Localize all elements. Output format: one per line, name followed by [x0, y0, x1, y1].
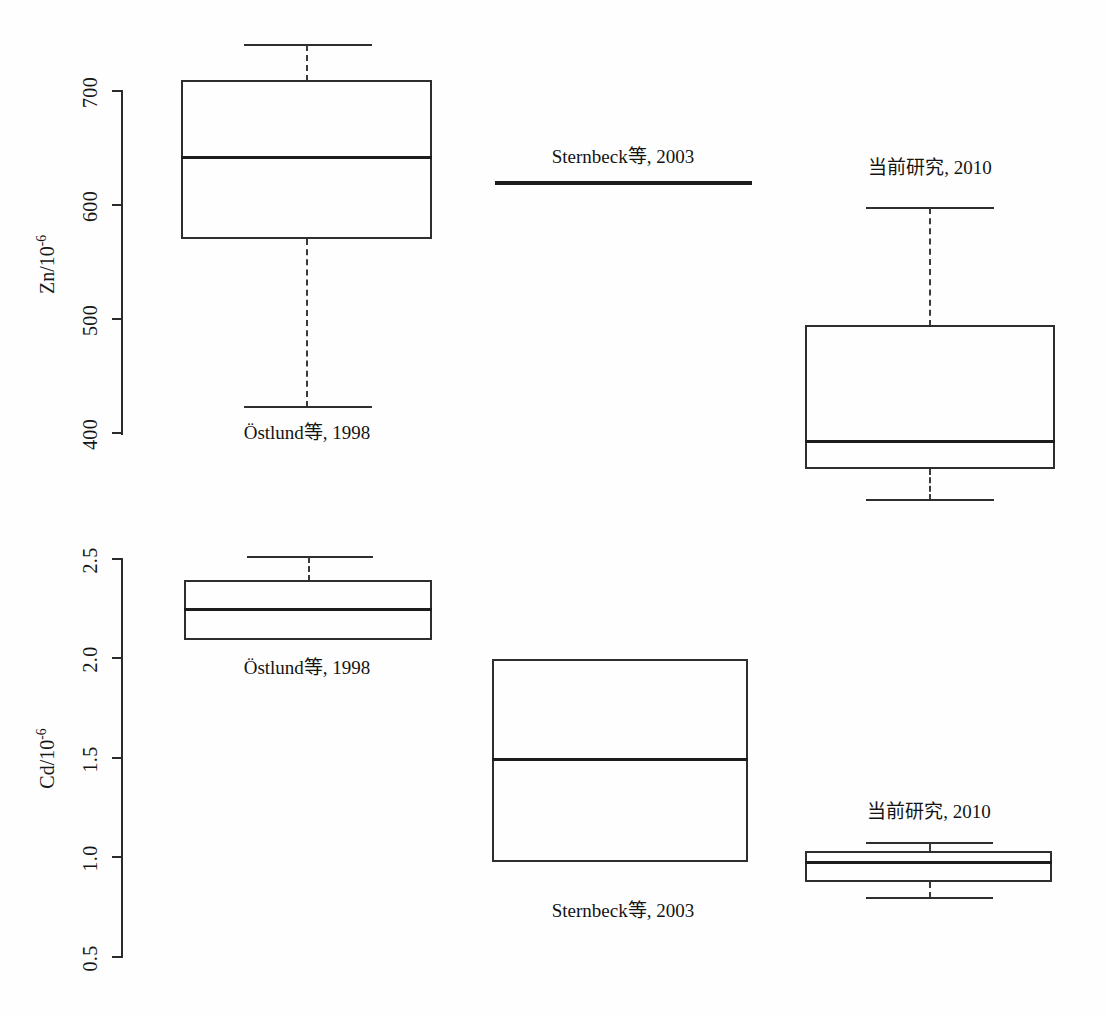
cd-box2-label: Sternbeck等, 2003: [503, 895, 743, 922]
zn-axis-title-exp: -6: [34, 235, 49, 246]
cd-box3-label: 当前研究, 2010: [823, 796, 1035, 823]
cd-box2-median: [492, 758, 748, 761]
zn-box1-lower-cap: [244, 406, 372, 408]
cd-box1-median: [184, 608, 432, 611]
cd-axis-title: Cd/10-6: [36, 699, 59, 819]
zn-tick-label-600: 600: [79, 177, 102, 237]
zn-box2-label: Sternbeck等, 2003: [503, 141, 743, 168]
zn-box1-lower-whisker: [306, 239, 308, 407]
zn-tick-500: [112, 318, 121, 320]
cd-tick-label-25: 2.5: [79, 531, 102, 591]
cd-tick-label-10: 1.0: [79, 829, 102, 889]
zn-box1-rect: [181, 80, 432, 239]
cd-box3-lower-whisker: [929, 882, 931, 898]
zn-axis-title-text: Zn/10: [36, 246, 58, 294]
zn-box1-upper-cap: [244, 44, 372, 46]
cd-tick-10: [112, 856, 121, 858]
zn-axis-spine: [121, 90, 123, 435]
cd-tick-15: [112, 757, 121, 759]
cd-axis-title-exp: -6: [34, 728, 49, 739]
cd-box3-median: [805, 861, 1052, 864]
zn-tick-400: [112, 432, 121, 434]
zn-box1-median: [181, 156, 432, 159]
cd-tick-label-20: 2.0: [79, 630, 102, 690]
zn-axis-title: Zn/10-6: [36, 205, 59, 325]
zn-box3-lower-cap: [866, 499, 994, 501]
cd-box1-label: Östlund等, 1998: [187, 652, 427, 679]
cd-tick-label-05: 0.5: [79, 929, 102, 989]
cd-axis-spine: [121, 558, 123, 958]
zn-box3-rect: [805, 325, 1055, 469]
cd-axis-title-text: Cd/10: [36, 740, 58, 789]
zn-box3-median: [805, 440, 1055, 443]
boxplot-figure: 700 600 500 400 Zn/10-6 Östlund等, 1998 S…: [0, 0, 1106, 1016]
zn-box3-lower-whisker: [929, 469, 931, 500]
zn-box2-single-line: [495, 181, 752, 185]
zn-box3-label: 当前研究, 2010: [824, 152, 1036, 179]
zn-tick-700: [112, 90, 121, 92]
cd-box3-lower-cap: [866, 897, 993, 899]
zn-tick-label-500: 500: [79, 291, 102, 351]
zn-tick-600: [112, 204, 121, 206]
zn-box3-upper-whisker: [929, 208, 931, 326]
cd-tick-label-15: 1.5: [79, 730, 102, 790]
zn-tick-label-400: 400: [79, 405, 102, 465]
zn-tick-label-700: 700: [79, 63, 102, 123]
cd-tick-05: [112, 956, 121, 958]
cd-box3-rect: [805, 851, 1052, 882]
zn-box1-upper-whisker: [306, 45, 308, 81]
cd-tick-25: [112, 558, 121, 560]
cd-box1-upper-whisker: [308, 557, 310, 581]
zn-box1-label: Östlund等, 1998: [187, 417, 427, 444]
cd-tick-20: [112, 657, 121, 659]
cd-box1-upper-cap: [247, 556, 373, 558]
